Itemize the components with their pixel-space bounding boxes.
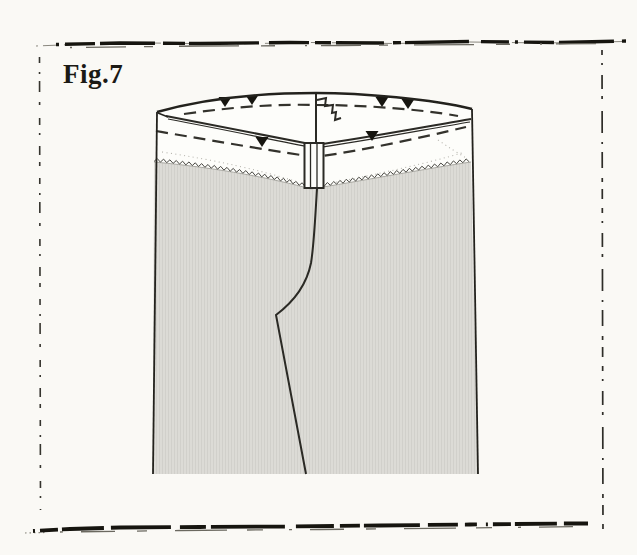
trousers-illustration xyxy=(153,92,478,474)
page-bottom-edge-scan-mark xyxy=(25,524,588,534)
waistband-diagram xyxy=(0,0,637,555)
scanned-book-page: Fig.7 xyxy=(0,0,637,555)
page-left-border-dashes xyxy=(40,57,41,510)
belt-loop xyxy=(305,143,324,188)
page-right-border-dashes xyxy=(602,50,603,535)
page-top-edge-scan-mark xyxy=(36,41,626,48)
